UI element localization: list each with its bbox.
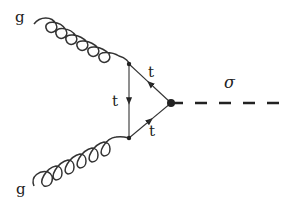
top-left-label: t (112, 92, 118, 110)
vertex-top (127, 62, 131, 66)
gluon-top-label: g (15, 8, 25, 26)
gluon-line-top (34, 18, 129, 64)
top-quark-upper-line (150, 84, 171, 104)
sigma-label: σ (224, 73, 236, 92)
feynman-diagram: g g t t t σ (0, 0, 297, 208)
gluon-line-bottom (33, 137, 129, 187)
gluon-bottom-label: g (16, 180, 26, 198)
top-upper-label: t (148, 63, 154, 81)
top-quark-lower-line (129, 121, 150, 139)
top-lower-label: t (149, 122, 155, 140)
vertex-bottom (127, 136, 131, 140)
top-quark-lower-line-rest (148, 103, 171, 122)
